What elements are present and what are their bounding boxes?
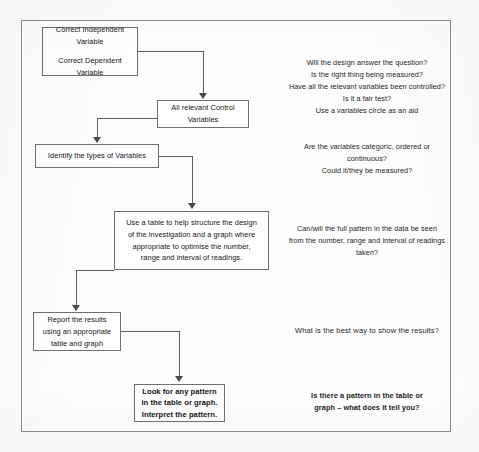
node-control-variables-line2: Variables xyxy=(162,114,244,126)
connector-identify-v xyxy=(192,156,193,206)
node-control-variables-line1: All relevant Control xyxy=(162,102,244,114)
node-variables-line3: Correct Dependent xyxy=(47,55,133,67)
connector-identify-h xyxy=(159,156,193,157)
connector-control-h xyxy=(97,118,157,119)
note-pattern-visible: Can/will the full pattern in the data be… xyxy=(272,223,462,259)
node-variables[interactable]: Correct Independent Variable Correct Dep… xyxy=(42,27,138,76)
note-design-line5: Use a variables circle as an aid xyxy=(276,105,458,117)
note-show-results-line1: What is the best way to show the results… xyxy=(272,325,462,337)
flowchart-page: Correct Independent Variable Correct Dep… xyxy=(0,0,479,452)
node-report-results-line1: Report the results xyxy=(38,314,116,326)
node-variables-line1: Correct Independent xyxy=(47,24,133,36)
node-look-for-pattern-line3: Interpret the pattern. xyxy=(139,409,220,420)
connector-variables-h xyxy=(138,51,204,52)
node-report-results-line2: using an appropriate xyxy=(38,326,116,338)
note-design-line2: Is the right thing being measured? xyxy=(276,69,458,81)
connector-report-arrow xyxy=(175,376,183,382)
note-design-line4: Is it a fair test? xyxy=(276,93,458,105)
connector-table-arrow xyxy=(72,305,80,311)
node-look-for-pattern-line1: Look for any pattern xyxy=(139,386,220,397)
node-table-design-line1: Use a table to help structure the design xyxy=(119,217,264,229)
connector-report-v xyxy=(179,331,180,379)
node-table-design-line2: of the investigation and a graph where xyxy=(119,229,264,241)
node-identify-types-line1: Identify the types of Variables xyxy=(40,150,154,162)
node-table-design[interactable]: Use a table to help structure the design… xyxy=(114,211,269,270)
node-table-design-line4: range and interval of readings. xyxy=(119,252,264,264)
node-report-results[interactable]: Report the results using an appropriate … xyxy=(33,312,121,351)
node-identify-types[interactable]: Identify the types of Variables xyxy=(35,144,159,168)
node-report-results-line3: table and graph xyxy=(38,338,116,350)
connector-table-h xyxy=(76,270,114,271)
connector-control-arrow xyxy=(93,137,101,143)
note-pattern-visible-line2: from the number, range and interval of r… xyxy=(272,235,462,247)
connector-identify-arrow xyxy=(188,203,196,209)
node-look-for-pattern[interactable]: Look for any pattern in the table or gra… xyxy=(134,384,225,422)
note-pattern-visible-line1: Can/will the full pattern in the data be… xyxy=(272,223,462,235)
note-pattern-meaning-line2: graph – what does it tell you? xyxy=(272,402,462,414)
connector-report-h xyxy=(121,331,180,332)
node-table-design-line3: appropriate to optimise the number, xyxy=(119,241,264,253)
note-show-results: What is the best way to show the results… xyxy=(272,325,462,337)
node-control-variables[interactable]: All relevant Control Variables xyxy=(157,100,249,128)
note-variable-types-line1: Are the variables categoric, ordered or xyxy=(276,141,458,153)
note-variable-types: Are the variables categoric, ordered or … xyxy=(276,141,458,177)
note-design-line1: Will the design answer the question? xyxy=(276,57,458,69)
connector-variables-arrow xyxy=(199,93,207,99)
note-variable-types-line3: Could it/they be measured? xyxy=(276,165,458,177)
node-look-for-pattern-line2: in the table or graph. xyxy=(139,397,220,408)
note-pattern-visible-line3: taken? xyxy=(272,247,462,259)
node-variables-line2: Variable xyxy=(47,36,133,48)
note-design: Will the design answer the question? Is … xyxy=(276,57,458,118)
note-pattern-meaning-line1: Is there a pattern in the table or xyxy=(272,390,462,402)
node-variables-line4: Variable xyxy=(47,67,133,79)
connector-variables-v xyxy=(203,51,204,96)
note-variable-types-line2: continuous? xyxy=(276,153,458,165)
note-pattern-meaning: Is there a pattern in the table or graph… xyxy=(272,390,462,414)
connector-table-v xyxy=(76,270,77,308)
note-design-line3: Have all the relevant variables been con… xyxy=(276,81,458,93)
